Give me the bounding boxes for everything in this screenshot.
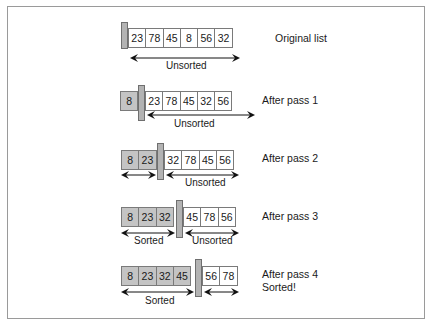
array-cell-sorted: 32: [156, 207, 174, 227]
sorted-cells: 8: [120, 91, 138, 111]
array-cell: 23: [145, 91, 163, 111]
pass-label: Original list: [275, 32, 327, 45]
array-cell: 45: [163, 28, 181, 48]
array-cell: 78: [162, 91, 180, 111]
array-cell-sorted: 23: [138, 150, 156, 170]
unsorted-label: Unsorted: [192, 235, 233, 246]
array-cell: 78: [219, 266, 237, 286]
sorted-cells: 8 23 32: [121, 207, 174, 227]
pass-label: After pass 4: [262, 268, 318, 281]
array-cell: 45: [180, 91, 198, 111]
unsorted-range-arrow: [204, 287, 239, 297]
array-cell: 78: [145, 28, 163, 48]
pass-label: After pass 3: [262, 210, 318, 223]
array-cell: 78: [200, 207, 218, 227]
array-cell: 32: [214, 28, 232, 48]
sort-wall: [157, 143, 164, 180]
array-cell-sorted: 23: [138, 266, 156, 286]
unsorted-label: Unsorted: [174, 118, 215, 129]
sort-wall: [176, 200, 183, 238]
array-cell-sorted: 8: [121, 207, 139, 227]
sort-wall: [195, 259, 202, 297]
array-cell: 45: [183, 207, 201, 227]
array-cell-sorted: 32: [156, 266, 174, 286]
sorted-range-arrow: [121, 170, 156, 180]
array-cell: 32: [164, 150, 182, 170]
sorted-cells: 8 23: [121, 150, 157, 170]
array-cell-sorted: 8: [121, 150, 139, 170]
array-cell-sorted: 23: [138, 207, 156, 227]
array-cell: 8: [180, 28, 198, 48]
unsorted-cells: 23 78 45 32 56: [145, 91, 232, 111]
array-cell: 56: [214, 91, 232, 111]
pass-label: After pass 1: [262, 94, 318, 107]
array-cell: 56: [197, 28, 215, 48]
unsorted-label: Unsorted: [166, 60, 207, 71]
unsorted-cells: 56 78: [202, 266, 238, 286]
unsorted-label: Unsorted: [185, 177, 226, 188]
array-cell: 78: [181, 150, 199, 170]
array-cell-sorted: 45: [173, 266, 191, 286]
array-cell: 23: [128, 28, 146, 48]
sort-wall: [121, 22, 128, 49]
array-cell: 32: [197, 91, 215, 111]
sorted-cells: 8 23 32 45: [121, 266, 191, 286]
array-cell-sorted: 8: [121, 266, 139, 286]
pass-label: After pass 2: [262, 152, 318, 165]
unsorted-cells: 45 78 56: [183, 207, 236, 227]
array-cell: 45: [199, 150, 217, 170]
sorted-exclaim-label: Sorted!: [262, 281, 296, 294]
array-cell-sorted: 8: [120, 91, 138, 111]
sort-wall: [138, 85, 145, 121]
array-cells: 23 78 45 8 56 32: [128, 28, 233, 48]
sorted-label: Sorted: [134, 235, 163, 246]
sorted-label: Sorted: [145, 295, 174, 306]
array-cell: 56: [216, 150, 234, 170]
unsorted-cells: 32 78 45 56: [164, 150, 234, 170]
array-cell: 56: [218, 207, 236, 227]
array-cell: 56: [202, 266, 220, 286]
